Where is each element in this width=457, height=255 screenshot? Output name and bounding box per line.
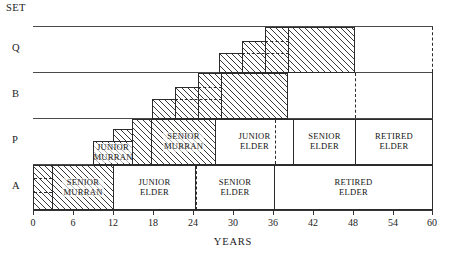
b-step-2 xyxy=(175,87,199,119)
a-senior-murran-label: SENIORMURRAN xyxy=(62,178,103,197)
x-tick-42 xyxy=(313,210,314,215)
p-segment-junior-murran: JUNIORMURRAN xyxy=(93,141,133,165)
p-retired-elder-label: RETIREDELDER xyxy=(374,132,414,151)
b-main-block xyxy=(221,73,288,119)
p-step-riser-1 xyxy=(113,129,133,141)
x-tick-label-36: 36 xyxy=(268,217,278,228)
a-dash-2 xyxy=(34,192,52,193)
x-tick-6 xyxy=(73,210,74,215)
row-label-a: A xyxy=(12,180,20,191)
a-segment-junior-elder: JUNIORELDER xyxy=(113,165,196,210)
p-segment-senior-elder: SENIORELDER xyxy=(293,119,356,165)
x-tick-48 xyxy=(353,210,354,215)
q-dash-2 xyxy=(265,41,289,42)
x-tick-60 xyxy=(432,210,433,215)
a-segment-senior-elder: SENIORELDER xyxy=(195,165,275,210)
x-tick-label-18: 18 xyxy=(148,217,158,228)
row-label-q: Q xyxy=(12,42,20,53)
p-segment-senior-murran: SENIORMURRAN xyxy=(151,119,216,165)
p-segment-junior-elder: JUNIORELDER xyxy=(215,119,294,165)
x-tick-18 xyxy=(153,210,154,215)
x-tick-24 xyxy=(193,210,194,215)
age-set-chart: SET Q B P A JUNIORMURRAN SENIORMURRAN JU… xyxy=(0,0,457,255)
rule-top-set xyxy=(33,26,433,27)
row-label-b: B xyxy=(12,88,19,99)
q-step-1 xyxy=(219,53,243,73)
q-dash-1 xyxy=(242,53,289,54)
x-tick-label-42: 42 xyxy=(308,217,318,228)
a-retired-elder-label: RETIREDELDER xyxy=(333,178,373,197)
x-tick-label-0: 0 xyxy=(31,217,36,228)
a-segment-retired-elder: RETIREDELDER xyxy=(274,165,433,210)
a-senior-elder-label: SENIORELDER xyxy=(218,178,253,197)
q-marker-60 xyxy=(432,27,433,72)
q-main-block xyxy=(288,27,355,73)
x-tick-label-12: 12 xyxy=(108,217,118,228)
a-segment-senior-murran: SENIORMURRAN xyxy=(52,165,114,210)
x-tick-label-24: 24 xyxy=(188,217,198,228)
p-junior-murran-label: JUNIORMURRAN xyxy=(93,143,133,162)
a-marker-24 xyxy=(196,166,197,210)
b-dash-1 xyxy=(175,99,222,100)
x-axis-title: YEARS xyxy=(214,236,252,247)
p-step-riser-2 xyxy=(132,119,152,165)
x-tick-label-54: 54 xyxy=(388,217,398,228)
set-axis-label: SET xyxy=(6,2,26,13)
x-tick-label-6: 6 xyxy=(71,217,76,228)
b-step-3 xyxy=(198,73,222,119)
row-label-p: P xyxy=(12,134,18,145)
p-junior-elder-label: JUNIORELDER xyxy=(237,132,271,151)
b-step-1 xyxy=(152,99,176,119)
a-junior-elder-label: JUNIORELDER xyxy=(137,178,171,197)
p-segment-retired-elder: RETIREDELDER xyxy=(355,119,433,165)
q-step-3 xyxy=(265,27,289,73)
x-tick-label-60: 60 xyxy=(427,217,437,228)
b-marker-48 xyxy=(355,73,356,118)
x-tick-54 xyxy=(393,210,394,215)
p-senior-murran-label: SENIORMURRAN xyxy=(163,132,204,151)
x-tick-0 xyxy=(33,210,34,215)
x-tick-12 xyxy=(113,210,114,215)
b-marker-60 xyxy=(432,72,433,118)
a-segment-initial xyxy=(33,165,53,210)
x-tick-30 xyxy=(233,210,234,215)
p-senior-elder-label: SENIORELDER xyxy=(307,132,342,151)
x-tick-36 xyxy=(273,210,274,215)
p-marker-36 xyxy=(275,120,276,164)
q-step-2 xyxy=(242,41,266,73)
x-tick-label-30: 30 xyxy=(228,217,238,228)
b-dash-2 xyxy=(198,87,222,88)
x-tick-label-48: 48 xyxy=(348,217,358,228)
a-dash-1 xyxy=(34,178,52,179)
